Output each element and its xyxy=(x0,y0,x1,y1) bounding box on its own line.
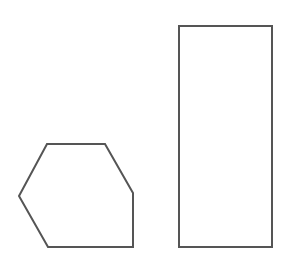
rectangle-shape xyxy=(179,26,272,247)
hexagon-shape xyxy=(19,144,133,247)
shapes-svg xyxy=(0,0,293,276)
diagram-canvas xyxy=(0,0,293,276)
